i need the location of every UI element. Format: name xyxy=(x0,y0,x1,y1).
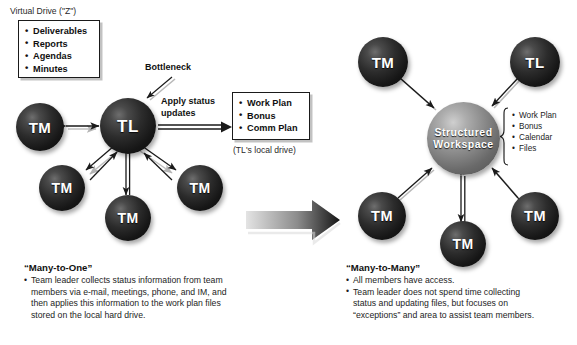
apply-status-arrow xyxy=(158,122,232,133)
node-tm-bottom-right-diagram: TM xyxy=(440,221,486,267)
tl-local-drive-box: Work Plan Bonus Comm Plan xyxy=(232,92,310,140)
list-item: Calendar xyxy=(512,132,557,143)
node-tm-top-left: TM xyxy=(358,37,408,87)
node-structured-workspace: Structured Workspace xyxy=(427,102,500,175)
list-item: Work Plan xyxy=(239,97,303,110)
local-drive-caption: (TL's local drive) xyxy=(233,145,296,155)
node-tl-center: TL xyxy=(100,98,156,154)
node-label: TM xyxy=(117,211,138,225)
node-label: TM xyxy=(189,181,210,195)
list-item: Agendas xyxy=(25,50,93,63)
edge-tl-tm-lower-left xyxy=(86,146,117,180)
list-item: Bonus xyxy=(512,121,557,132)
node-label: TM xyxy=(452,237,473,251)
bullet-line: stored on the local hard drive. xyxy=(31,310,274,322)
many-to-one-bullets: Team leader collects status information … xyxy=(24,275,274,321)
local-drive-list: Work Plan Bonus Comm Plan xyxy=(233,93,309,139)
bullet-line: then applies this information to the wor… xyxy=(31,298,274,310)
bullet-line: All members have access. xyxy=(353,275,577,287)
virtual-drive-label: Virtual Drive ("Z") xyxy=(10,6,76,16)
edge-ws-tm-top-left xyxy=(400,78,436,110)
apply-status-label: Apply status updates xyxy=(161,95,223,119)
virtual-drive-list: Deliverables Reports Agendas Minutes xyxy=(19,21,99,79)
edge-ws-tm-bottom xyxy=(461,176,465,222)
list-item: Bonus xyxy=(239,110,303,123)
diagram-canvas: Virtual Drive ("Z") Deliverables Reports… xyxy=(0,0,577,345)
node-tm-lower-left: TM xyxy=(39,165,85,211)
transition-arrow xyxy=(246,200,340,243)
many-to-one-caption: “Many-to-One” Team leader collects statu… xyxy=(24,262,274,321)
node-tm-left: TM xyxy=(16,103,64,151)
node-label: TM xyxy=(372,55,395,70)
bottleneck-label: Bottleneck xyxy=(145,62,191,72)
list-item: Files xyxy=(512,143,557,154)
many-to-many-caption: “Many-to-Many” All members have access. … xyxy=(346,262,577,321)
node-label: TL xyxy=(525,55,544,70)
many-to-one-title: “Many-to-One” xyxy=(24,262,274,273)
edge-ws-tm-lower-left xyxy=(398,168,434,200)
node-label: TM xyxy=(51,181,72,195)
list-item: Minutes xyxy=(25,63,93,76)
list-item: Team leader does not spend time collecti… xyxy=(346,287,577,322)
node-tm-lower-left-right-diagram: TM xyxy=(358,192,406,240)
list-item: Work Plan xyxy=(512,110,557,121)
list-item: All members have access. xyxy=(346,275,577,287)
node-label: TL xyxy=(117,118,139,135)
bullet-line: Team leader does not spend time collecti… xyxy=(353,287,577,299)
many-to-many-title: “Many-to-Many” xyxy=(346,262,577,273)
list-item: Team leader collects status information … xyxy=(24,275,274,321)
workspace-label-line2: Workspace xyxy=(433,139,493,151)
workspace-contents-list: Work Plan Bonus Calendar Files xyxy=(512,110,557,154)
bullet-line: Team leader collects status information … xyxy=(31,275,274,287)
node-label: TM xyxy=(524,209,546,224)
node-tm-lower-right-right-diagram: TM xyxy=(511,192,559,240)
edge-tl-tm-lower-right xyxy=(142,146,176,180)
bullet-line: “exceptions” and area to assist team mem… xyxy=(353,310,577,322)
apply-status-line1: Apply status xyxy=(161,95,223,107)
brace-icon xyxy=(500,108,508,165)
apply-status-line2: updates xyxy=(161,107,223,119)
node-label: TM xyxy=(371,209,393,224)
list-item: Comm Plan xyxy=(239,122,303,135)
list-item: Deliverables xyxy=(25,25,93,38)
edge-ws-tl-top-right xyxy=(492,78,520,108)
edge-tl-tm-bottom xyxy=(126,152,130,195)
many-to-many-bullets: All members have access. Team leader doe… xyxy=(346,275,577,321)
node-tm-lower-right: TM xyxy=(177,165,223,211)
node-tm-bottom: TM xyxy=(105,195,151,241)
edge-ws-tm-lower-right xyxy=(492,168,520,200)
bullet-line: status and updating files, but focuses o… xyxy=(353,298,577,310)
bullet-line: members via e-mail, meetings, phone, and… xyxy=(31,287,274,299)
node-tl-top-right: TL xyxy=(510,37,560,87)
virtual-drive-box: Deliverables Reports Agendas Minutes xyxy=(18,20,100,78)
workspace-label-line1: Structured xyxy=(434,127,492,139)
node-label: TM xyxy=(29,120,52,135)
list-item: Reports xyxy=(25,38,93,51)
